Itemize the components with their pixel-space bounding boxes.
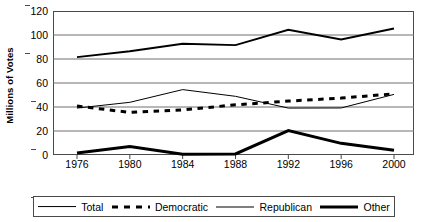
legend-swatch-total-icon [38, 202, 76, 211]
legend-label-democratic: Democratic [155, 201, 208, 213]
x-axis-tick-label: 1988 [224, 158, 247, 170]
legend-item-other[interactable]: Other [320, 201, 389, 213]
y-axis-tick-label: 120 [30, 5, 48, 17]
y-axis-tick-mark [31, 101, 36, 102]
y-axis-tick-mark [25, 5, 30, 6]
x-axis-tick-label: 1992 [277, 158, 300, 170]
x-axis-tick-label: 1996 [329, 158, 352, 170]
y-axis-tick-mark [25, 53, 30, 54]
series-line-total [77, 29, 394, 58]
legend-swatch-other-icon [320, 202, 358, 211]
y-axis-tick-label: 20 [36, 125, 48, 137]
x-axis-tick-labels: 1976198019841988199219962000 [53, 158, 414, 174]
series-layer [53, 11, 414, 155]
legend-label-total: Total [81, 201, 103, 213]
y-axis-tick-mark [31, 149, 36, 150]
y-axis-label-text: Millions of Votes [4, 47, 15, 123]
y-axis-tick-label: 100 [30, 29, 48, 41]
y-axis-tick-label: 0 [42, 149, 48, 161]
chart-legend: TotalDemocraticRepublicanOther [33, 196, 395, 217]
legend-item-republican[interactable]: Republican [216, 201, 312, 213]
y-axis-tick-labels: 020406080100120 [14, 11, 48, 155]
plot-area [53, 11, 414, 155]
votes-line-chart: Millions of Votes 020406080100120 197619… [0, 0, 424, 222]
x-axis-tick-label: 1976 [65, 158, 88, 170]
legend-label-other: Other [363, 201, 389, 213]
legend-label-republican: Republican [259, 201, 312, 213]
series-line-other [77, 131, 394, 155]
legend-item-total[interactable]: Total [38, 201, 103, 213]
legend-swatch-democratic-icon [112, 202, 150, 211]
y-axis-tick-label: 40 [36, 101, 48, 113]
legend-swatch-republican-icon [216, 202, 254, 211]
y-axis-tick-label: 80 [36, 53, 48, 65]
x-axis-tick-label: 1984 [171, 158, 194, 170]
legend-item-democratic[interactable]: Democratic [112, 201, 208, 213]
y-axis-tick-label: 60 [36, 77, 48, 89]
x-axis-tick-label: 2000 [382, 158, 405, 170]
x-axis-tick-label: 1980 [118, 158, 141, 170]
